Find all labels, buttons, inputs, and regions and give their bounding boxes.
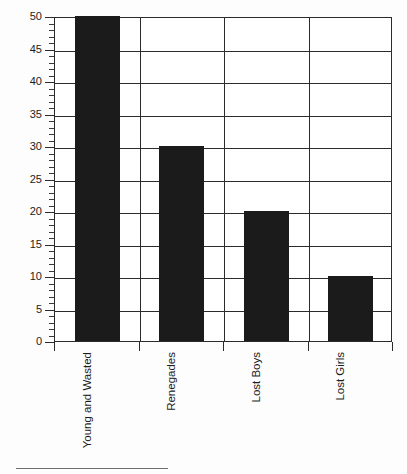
- bottom-horizontal-rule: [16, 468, 168, 469]
- y-tick-minor: [49, 121, 54, 122]
- y-tick-label: 5: [14, 304, 42, 315]
- y-tick-major: [45, 277, 54, 278]
- y-tick-minor: [49, 284, 54, 285]
- y-tick-minor: [49, 37, 54, 38]
- bar: [244, 211, 289, 341]
- x-tick: [223, 342, 224, 351]
- y-tick-minor: [49, 89, 54, 90]
- gridline-vertical: [140, 18, 141, 341]
- bar: [75, 16, 120, 341]
- y-tick-minor: [49, 329, 54, 330]
- y-axis-line: [54, 17, 55, 342]
- y-tick-major: [45, 180, 54, 181]
- y-tick-minor: [49, 134, 54, 135]
- y-tick-minor: [49, 102, 54, 103]
- y-tick-label: 20: [14, 206, 42, 217]
- y-tick-minor: [49, 219, 54, 220]
- bar: [159, 146, 204, 341]
- y-tick-minor: [49, 316, 54, 317]
- scanned-page-surface: 05101520253035404550 Young and WastedRen…: [0, 0, 407, 474]
- y-tick-minor: [49, 303, 54, 304]
- y-tick-minor: [49, 167, 54, 168]
- y-tick-minor: [49, 206, 54, 207]
- y-tick-major: [45, 212, 54, 213]
- x-tick-label: Renegades: [166, 352, 178, 411]
- y-axis-labels: 05101520253035404550: [8, 0, 42, 474]
- y-tick-minor: [49, 30, 54, 31]
- x-tick: [54, 342, 55, 351]
- y-tick-minor: [49, 199, 54, 200]
- y-tick-label: 10: [14, 271, 42, 282]
- y-tick-label: 40: [14, 76, 42, 87]
- y-tick-minor: [49, 251, 54, 252]
- y-tick-label: 0: [14, 336, 42, 347]
- y-tick-minor: [49, 193, 54, 194]
- bar-chart: 05101520253035404550 Young and WastedRen…: [0, 0, 407, 474]
- y-tick-minor: [49, 141, 54, 142]
- y-tick-minor: [49, 69, 54, 70]
- y-tick-minor: [49, 225, 54, 226]
- y-tick-minor: [49, 95, 54, 96]
- x-tick-label: Lost Girls: [335, 352, 347, 401]
- x-tick: [392, 342, 393, 351]
- y-tick-minor: [49, 160, 54, 161]
- y-tick-minor: [49, 108, 54, 109]
- y-tick-major: [45, 17, 54, 18]
- y-tick-minor: [49, 43, 54, 44]
- y-tick-minor: [49, 56, 54, 57]
- gridline-vertical: [309, 18, 310, 341]
- y-tick-label: 30: [14, 141, 42, 152]
- y-tick-label: 15: [14, 239, 42, 250]
- y-tick-minor: [49, 271, 54, 272]
- y-tick-label: 50: [14, 11, 42, 22]
- y-tick-major: [45, 50, 54, 51]
- x-tick-label: Lost Boys: [251, 352, 263, 403]
- y-tick-major: [45, 245, 54, 246]
- y-tick-minor: [49, 232, 54, 233]
- y-tick-minor: [49, 173, 54, 174]
- y-tick-label: 25: [14, 174, 42, 185]
- y-tick-minor: [49, 24, 54, 25]
- y-tick-label: 45: [14, 44, 42, 55]
- y-tick-major: [45, 82, 54, 83]
- y-tick-major: [45, 115, 54, 116]
- x-tick: [308, 342, 309, 351]
- x-tick: [139, 342, 140, 351]
- y-tick-label: 35: [14, 109, 42, 120]
- y-tick-minor: [49, 290, 54, 291]
- y-tick-major: [45, 310, 54, 311]
- plot-area: [54, 17, 392, 342]
- x-tick-label: Young and Wasted: [82, 352, 94, 448]
- y-tick-minor: [49, 186, 54, 187]
- y-tick-minor: [49, 297, 54, 298]
- y-tick-minor: [49, 128, 54, 129]
- y-tick-minor: [49, 264, 54, 265]
- bar: [328, 276, 373, 341]
- y-tick-major: [45, 147, 54, 148]
- y-tick-minor: [49, 76, 54, 77]
- y-tick-minor: [49, 238, 54, 239]
- y-tick-minor: [49, 258, 54, 259]
- gridline-vertical: [224, 18, 225, 341]
- y-tick-minor: [49, 323, 54, 324]
- y-tick-minor: [49, 63, 54, 64]
- y-tick-major: [45, 342, 54, 343]
- y-tick-minor: [49, 154, 54, 155]
- y-tick-minor: [49, 336, 54, 337]
